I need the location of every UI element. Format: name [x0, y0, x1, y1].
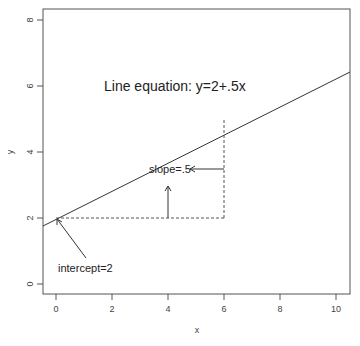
intercept-arrow: [57, 219, 86, 258]
y-tick-label: 4: [25, 149, 35, 154]
y-tick-label: 6: [25, 83, 35, 88]
y-axis-title: y: [5, 149, 15, 154]
slope-annotation: slope=.5: [149, 163, 191, 175]
equation-annotation: Line equation: y=2+.5x: [104, 78, 246, 94]
plot-box: [43, 9, 350, 294]
x-tick-label: 8: [277, 304, 282, 314]
regression-line: [43, 72, 350, 226]
intercept-annotation: intercept=2: [58, 262, 113, 274]
arrows: [57, 166, 224, 258]
x-axis-title: x: [195, 325, 200, 335]
x-tick-label: 4: [165, 304, 170, 314]
chart: 0 2 4 6 8 10 x 0 2 4 6 8 y Line equation…: [0, 0, 360, 346]
x-axis: [56, 294, 336, 300]
x-tick-label: 6: [221, 304, 226, 314]
x-tick-label: 2: [109, 304, 114, 314]
x-tick-label: 10: [331, 304, 341, 314]
x-tick-label: 0: [53, 304, 58, 314]
y-tick-label: 8: [25, 17, 35, 22]
y-tick-label: 0: [25, 281, 35, 286]
y-tick-label: 2: [25, 215, 35, 220]
y-axis: [37, 20, 43, 284]
